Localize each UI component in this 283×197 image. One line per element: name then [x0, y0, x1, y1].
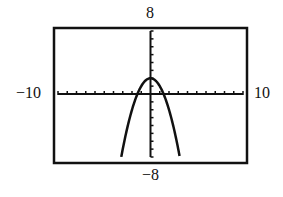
- axes: [58, 31, 243, 157]
- graph-window: [0, 0, 283, 197]
